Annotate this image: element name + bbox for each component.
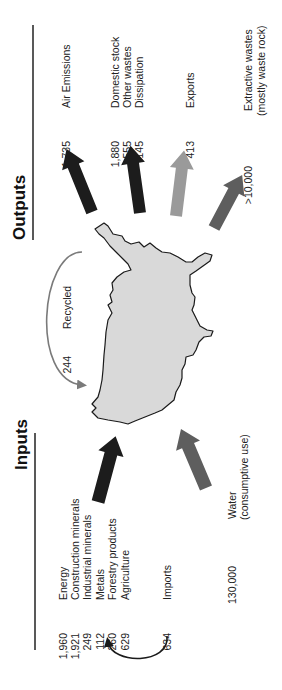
outputs-header: Outputs [10, 175, 29, 240]
water-label: Water [226, 491, 238, 519]
other-wastes-label: Other wastes [121, 46, 133, 108]
materials-input-arrow-icon [85, 433, 128, 505]
water-sublabel: (consumptive use) [238, 434, 250, 520]
exports-label: Exports [184, 72, 196, 108]
extractive-wastes-label: Extractive wastes [242, 29, 254, 111]
air-emissions-label: Air Emissions [60, 44, 72, 108]
output-exports: 413 Exports [184, 72, 196, 158]
water-value: 130,000 [226, 566, 238, 604]
inputs-header-group: Inputs [12, 419, 35, 650]
agriculture-label: Agriculture [119, 550, 131, 600]
input-water: 130,000 Water (consumptive use) [226, 434, 250, 604]
construction-minerals-label: Construction minerals [69, 498, 81, 600]
output-arrows [55, 144, 252, 234]
output-extractive-wastes: >10,000 Extractive wastes (mostly waste … [242, 26, 267, 205]
dissipation-label: Dissipation [133, 56, 145, 108]
metals-value: 112 [94, 633, 106, 650]
domestic-stock-label: Domestic stock [109, 36, 121, 108]
extractive-wastes-value: >10,000 [242, 166, 254, 204]
imports-label: Imports [161, 565, 173, 600]
domestic-stock-value: 1,880 [109, 141, 121, 167]
extractive-wastes-sublabel: (mostly waste rock) [255, 26, 267, 116]
construction-minerals-value: 1,921 [69, 633, 81, 659]
recycled-loop: 244 Recycled [47, 252, 82, 385]
industrial-minerals-label: Industrial minerals [81, 515, 93, 600]
us-map [92, 223, 213, 424]
agriculture-value: 629 [119, 633, 131, 651]
outputs-header-group: Outputs [10, 25, 33, 240]
input-items: 1,960 Energy 1,921 Construction minerals… [57, 498, 131, 659]
recycled-label: Recycled [61, 286, 73, 329]
material-flow-diagram: Outputs 1,735 Air Emissions 1,880 Domest… [0, 0, 282, 690]
metals-label: Metals [94, 569, 106, 600]
energy-value: 1,960 [57, 633, 69, 659]
output-air-emissions: 1,735 Air Emissions [60, 44, 72, 167]
water-input-arrow-icon [169, 424, 218, 493]
industrial-minerals-value: 249 [81, 633, 93, 651]
input-arrows [85, 424, 218, 505]
recycled-value: 244 [61, 356, 73, 374]
output-domestic-group: 1,880 Domestic stock 555 Other wastes 14… [109, 36, 145, 167]
forestry-products-label: Forestry products [106, 518, 118, 600]
inputs-header: Inputs [12, 419, 31, 470]
forestry-products-value: 260 [106, 633, 118, 651]
energy-label: Energy [57, 566, 69, 600]
